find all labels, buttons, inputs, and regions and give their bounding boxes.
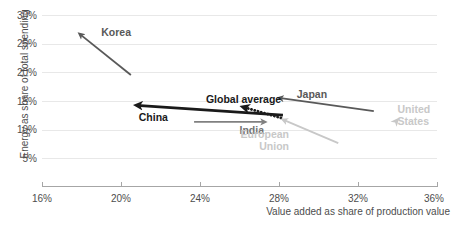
arrow-layer	[0, 0, 454, 228]
series-label-japan: Japan	[297, 88, 327, 100]
series-label-china: China	[139, 111, 168, 123]
series-label-european-union: European Union	[235, 128, 289, 152]
series-label-global-average: Global average	[206, 93, 281, 105]
arrow-korea	[80, 34, 131, 75]
arrow-european-union	[283, 120, 338, 143]
series-label-korea: Korea	[101, 26, 131, 38]
chart-container: 30% 25% 20% 15% 10% 5% Energy as share o…	[0, 0, 454, 228]
series-label-united-states: United States	[398, 103, 431, 127]
